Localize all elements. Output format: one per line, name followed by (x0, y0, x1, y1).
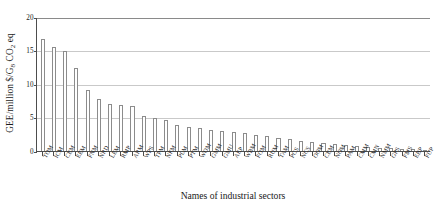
bar-slot (374, 18, 385, 151)
x-tick-label-slot: NMM (374, 156, 385, 188)
bar-slot (329, 18, 340, 151)
x-tick-label-slot: PTM (182, 156, 193, 188)
bar (97, 99, 101, 151)
bar (119, 105, 123, 151)
bar-slot (82, 18, 93, 151)
x-tick-label-slot: WOM (194, 156, 205, 188)
x-tick-label-slot: PCS (284, 156, 295, 188)
bar (41, 39, 45, 150)
bar-slot (194, 18, 205, 151)
bar-slot (104, 18, 115, 151)
y-tick-label-15: 15 (26, 47, 33, 55)
bar-slot (250, 18, 261, 151)
bar-slot (273, 18, 284, 151)
y-tick-label-0: 0 (30, 148, 34, 156)
bar (52, 47, 56, 151)
x-tick-label-slot: GPS (385, 156, 396, 188)
y-axis-title: GEE/million $/G8 CO2 eq (0, 0, 20, 165)
bar-slot (397, 18, 408, 151)
x-tick-label-slot: TOM (36, 156, 47, 188)
x-tick-label-slot: FUP (419, 156, 430, 188)
bar-slot (408, 18, 419, 151)
bar (74, 68, 78, 150)
y-tick-label-20: 20 (26, 14, 33, 22)
x-tick-label-slot: WBM (239, 156, 250, 188)
bar-slot (172, 18, 183, 151)
x-tick-label-slot: TAM (272, 156, 283, 188)
bar-slot (239, 18, 250, 151)
x-tick-label-slot: LEM (104, 156, 115, 188)
bar-slot (93, 18, 104, 151)
x-tick-label-slot: WPS (137, 156, 148, 188)
bar-slot (161, 18, 172, 151)
bar-slot (284, 18, 295, 151)
y-axis-title-post: eq (5, 33, 15, 44)
x-tick-label-slot: TPM (149, 156, 160, 188)
bar (63, 51, 67, 150)
chart-figure: GEE/million $/G8 CO2 eq 05101520 TOMICMC… (0, 0, 446, 210)
bar-slot (228, 18, 239, 151)
x-tick-label-slot: CMM (351, 156, 362, 188)
bar-slot (116, 18, 127, 151)
bar-slot (59, 18, 70, 151)
bar-slot (295, 18, 306, 151)
x-tick-label-slot: AEP (227, 156, 238, 188)
x-tick-label-slot: EBP (407, 156, 418, 188)
bar (108, 104, 112, 150)
bar (153, 118, 157, 150)
bar-slot (48, 18, 59, 151)
x-tick-label-slot: ARM (126, 156, 137, 188)
y-axis-title-mid: CO (5, 48, 15, 64)
bar-slot (419, 18, 430, 151)
bar-slot (307, 18, 318, 151)
bar-slot (340, 18, 351, 151)
y-axis-title-pre: GEE/million $/G (5, 67, 15, 132)
x-tick-label-slot: PLM (171, 156, 182, 188)
x-tick-label-slot: FNM (81, 156, 92, 188)
bar-slot (183, 18, 194, 151)
bar-slot (206, 18, 217, 151)
bar-slot (262, 18, 273, 151)
x-tick-label-slot: NOM (329, 156, 340, 188)
y-axis-title-sub-8: 8 (9, 63, 17, 67)
x-tick-label-slot: FOM (250, 156, 261, 188)
x-tick-label-slot: RMP (115, 156, 126, 188)
x-tick-label-slot: RUM (261, 156, 272, 188)
bar-slot (149, 18, 160, 151)
bar-series (37, 18, 430, 151)
x-tick-label-slot: NCS (295, 156, 306, 188)
bar-slot (318, 18, 329, 151)
x-tick-label-slot: NFM (160, 156, 171, 188)
y-axis-title-sub-2: 2 (9, 44, 17, 48)
plot-area: 05101520 (36, 18, 430, 152)
bar-slot (127, 18, 138, 151)
x-tick-label-slot: EEM (70, 156, 81, 188)
x-tick-label-slot: GMM (205, 156, 216, 188)
bar-slot (217, 18, 228, 151)
bar-slot (37, 18, 48, 151)
x-tick-label-slot: CMN (362, 156, 373, 188)
x-axis-title: Names of industrial sectors (36, 190, 430, 201)
x-tick-label-slot: NRD (92, 156, 103, 188)
x-tick-label-slot: PAM (340, 156, 351, 188)
x-tick-label-slot: CEM (317, 156, 328, 188)
bar-slot (363, 18, 374, 151)
bar (164, 120, 168, 150)
x-tick-label-slot: CEM (59, 156, 70, 188)
bar-slot (138, 18, 149, 151)
x-axis-tick-labels: TOMICMCEMEEMFNMNRDLEMRMPARMWPSTPMNFMPLMP… (36, 156, 430, 188)
y-tick-label-10: 10 (26, 81, 33, 89)
bar (130, 106, 134, 150)
bar-slot (352, 18, 363, 151)
bar-slot (71, 18, 82, 151)
x-tick-label-slot: OOM (306, 156, 317, 188)
x-tick-label-slot: FMS (396, 156, 407, 188)
x-tick-label-slot: ICM (47, 156, 58, 188)
y-tick-label-5: 5 (30, 114, 34, 122)
bar-slot (385, 18, 396, 151)
x-tick-label-slot: GMU (216, 156, 227, 188)
bar (86, 90, 90, 151)
